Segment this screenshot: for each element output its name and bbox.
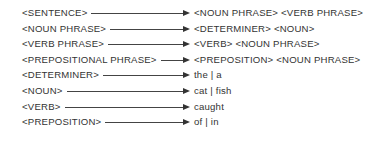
arrow-line <box>60 91 184 92</box>
rule-verb: <VERB> caught <box>0 100 383 114</box>
arrow-line <box>60 107 184 108</box>
rule-rhs: cat | fish <box>194 84 232 98</box>
rule-lhs: <PREPOSITIONAL PHRASE> <box>22 53 161 67</box>
right-arrow-icon <box>183 104 190 110</box>
rule-rhs: the | a <box>194 68 222 82</box>
rule-rhs: caught <box>194 100 224 114</box>
rule-lhs: <NOUN PHRASE> <box>22 22 110 36</box>
rule-lhs: <SENTENCE> <box>22 6 91 20</box>
rule-sentence: <SENTENCE> <NOUN PHRASE> <VERB PHRASE> <box>0 6 383 20</box>
rule-rhs: <PREPOSITION> <NOUN PHRASE> <box>194 53 360 67</box>
rule-rhs: <DETERMINER> <NOUN> <box>194 22 315 36</box>
rule-lhs: <PREPOSITION> <box>22 115 105 129</box>
right-arrow-icon <box>183 88 190 94</box>
right-arrow-icon <box>183 72 190 78</box>
rule-prepositional-phrase: <PREPOSITIONAL PHRASE> <PREPOSITION> <NO… <box>0 53 383 67</box>
rule-preposition: <PREPOSITION> of | in <box>0 115 383 129</box>
right-arrow-icon <box>183 26 190 32</box>
right-arrow-icon <box>183 119 190 125</box>
right-arrow-icon <box>183 10 190 16</box>
rule-lhs: <NOUN> <box>22 84 67 98</box>
rule-noun-phrase: <NOUN PHRASE> <DETERMINER> <NOUN> <box>0 22 383 36</box>
rule-rhs: <VERB> <NOUN PHRASE> <box>194 37 320 51</box>
right-arrow-icon <box>183 57 190 63</box>
rule-rhs: <NOUN PHRASE> <VERB PHRASE> <box>194 6 363 20</box>
rule-lhs: <VERB> <box>22 100 65 114</box>
rule-rhs: of | in <box>194 115 219 129</box>
rule-noun: <NOUN> cat | fish <box>0 84 383 98</box>
rule-lhs: <DETERMINER> <box>22 68 103 82</box>
rule-verb-phrase: <VERB PHRASE> <VERB> <NOUN PHRASE> <box>0 37 383 51</box>
rule-lhs: <VERB PHRASE> <box>22 37 108 51</box>
right-arrow-icon <box>183 41 190 47</box>
rule-determiner: <DETERMINER> the | a <box>0 68 383 82</box>
